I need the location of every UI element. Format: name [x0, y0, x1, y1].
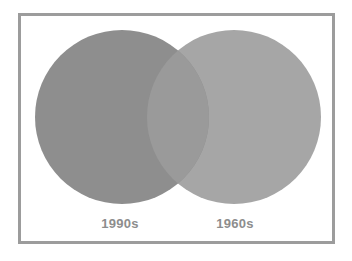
venn-label-1960s: 1960s	[216, 216, 254, 231]
venn-diagram-figure: 1990s 1960s	[0, 0, 352, 261]
venn-label-1990s: 1990s	[101, 216, 139, 231]
venn-canvas: 1990s 1960s	[0, 0, 352, 261]
